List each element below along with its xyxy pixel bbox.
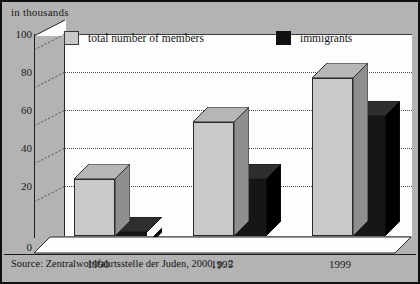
bar-front-face <box>312 78 353 236</box>
y-tick-label-80: 80 <box>6 66 32 78</box>
bar-front-face <box>74 179 115 236</box>
bar-side-face <box>234 107 249 236</box>
grid-connector-20 <box>34 186 65 201</box>
source-divider <box>4 254 416 255</box>
grid-connector-100 <box>34 34 65 49</box>
legend-label-immigrants: immigrants <box>300 32 352 44</box>
bar-side-face <box>147 228 162 232</box>
y-axis-units-label: in thousands <box>11 6 69 18</box>
bar-1995-members <box>193 122 249 236</box>
legend-label-members: total number of members <box>88 32 204 44</box>
grid-connector-80 <box>34 72 65 87</box>
bar-side-face <box>266 164 281 236</box>
bar-1990-members <box>74 179 130 236</box>
plot-floor <box>34 236 412 254</box>
plot-corner-bevel-line <box>34 20 66 36</box>
chart-figure: in thousands <box>0 0 420 284</box>
legend-item-immigrants: immigrants <box>276 31 352 45</box>
y-axis-line <box>34 34 35 238</box>
grid-connector-60 <box>34 110 65 125</box>
bar-side-face <box>353 63 368 236</box>
plot-area <box>34 20 412 252</box>
y-tick-label-0: 0 <box>6 241 32 253</box>
y-tick-label-40: 40 <box>6 142 32 154</box>
y-tick-label-100: 100 <box>6 28 32 40</box>
y-tick-label-20: 20 <box>6 180 32 192</box>
bar-side-face <box>115 164 130 236</box>
bar-side-face <box>385 101 400 236</box>
legend-item-members: total number of members <box>64 31 204 45</box>
legend-swatch-members-icon <box>64 31 79 45</box>
y-tick-label-60: 60 <box>6 104 32 116</box>
source-note: Source: Zentralwohlfahrtsstelle der Jude… <box>11 258 233 269</box>
x-tick-label-1999: 1999 <box>310 258 370 270</box>
bar-1999-members <box>312 78 368 236</box>
chart-legend: total number of members immigrants <box>64 27 386 49</box>
legend-swatch-immigrants-icon <box>276 31 291 45</box>
bar-front-face <box>193 122 234 236</box>
grid-connector-40 <box>34 148 65 163</box>
